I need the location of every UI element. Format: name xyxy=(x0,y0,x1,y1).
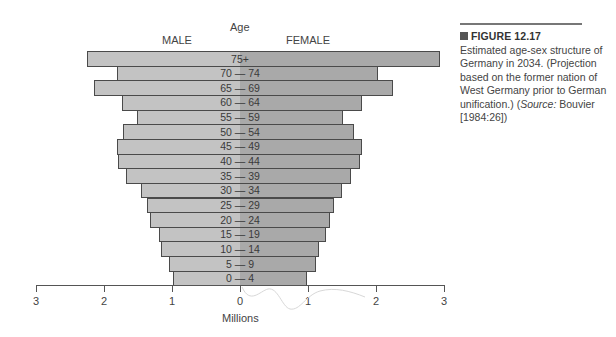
age-group-label: 65 — 69 xyxy=(200,82,280,94)
caption-rule xyxy=(460,23,582,25)
age-axis-title: Age xyxy=(230,21,250,33)
x-tick xyxy=(172,285,173,292)
age-group-label: 60 — 64 xyxy=(200,96,280,108)
age-group-label: 75+ xyxy=(200,53,280,65)
age-group-label: 35 — 39 xyxy=(200,170,280,182)
x-tick-label: 2 xyxy=(94,295,114,307)
square-bullet-icon xyxy=(460,32,468,40)
x-tick xyxy=(36,285,37,292)
age-group-label: 50 — 54 xyxy=(200,126,280,138)
figure-number: FIGURE 12.17 xyxy=(471,30,541,42)
age-group-label: 70 — 74 xyxy=(200,67,280,79)
age-group-label: 40 — 44 xyxy=(200,155,280,167)
legend-female-label: FEMALE xyxy=(286,34,330,46)
pencil-mark-decoration xyxy=(240,285,380,325)
age-group-label: 25 — 29 xyxy=(200,199,280,211)
figure-caption: FIGURE 12.17 Estimated age-sex structure… xyxy=(460,23,610,125)
x-tick xyxy=(444,285,445,292)
age-group-label: 0 — 4 xyxy=(200,272,280,284)
x-tick-label: 3 xyxy=(26,295,46,307)
age-group-label: 45 — 49 xyxy=(200,140,280,152)
x-tick-label: 3 xyxy=(434,295,454,307)
x-tick xyxy=(104,285,105,292)
age-group-label: 55 — 59 xyxy=(200,111,280,123)
source-label: Source: xyxy=(520,98,556,110)
age-group-label: 10 — 14 xyxy=(200,243,280,255)
legend-male-label: MALE xyxy=(162,34,192,46)
age-group-label: 30 — 34 xyxy=(200,184,280,196)
age-group-label: 15 — 19 xyxy=(200,228,280,240)
age-group-label: 20 — 24 xyxy=(200,214,280,226)
x-tick-label: 1 xyxy=(162,295,182,307)
age-group-label: 5 — 9 xyxy=(200,258,280,270)
